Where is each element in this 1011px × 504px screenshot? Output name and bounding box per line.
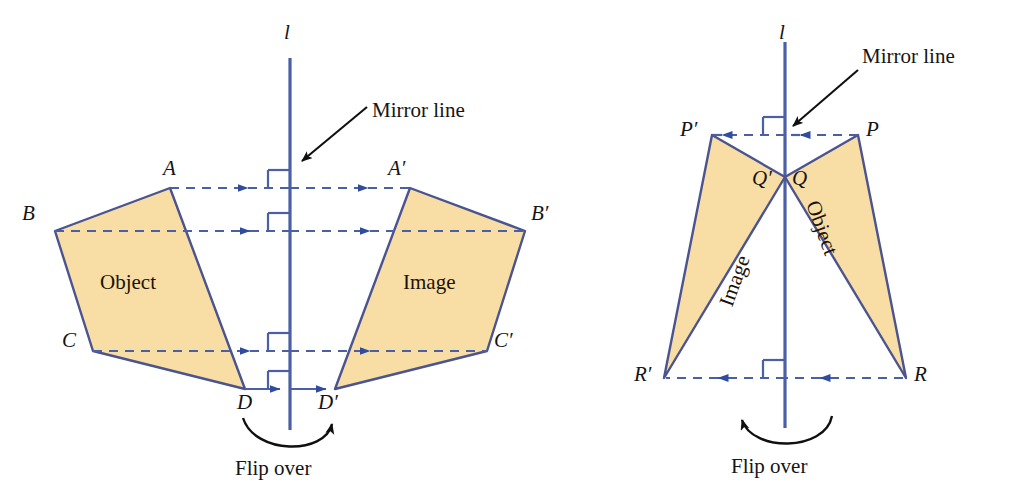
mirror-line-callout-arrow-left <box>302 107 367 161</box>
vertex-label-d-prime: D′ <box>318 392 338 413</box>
image-region-label-left: Image <box>403 272 455 293</box>
right-panel <box>664 42 906 444</box>
flip-over-label-right: Flip over <box>731 456 807 477</box>
mirror-line-annotation-left: Mirror line <box>372 100 465 121</box>
mirror-line-name-right: l <box>779 22 785 43</box>
mirror-line-name-left: l <box>284 22 290 43</box>
vertex-label-p-prime: P′ <box>680 119 697 140</box>
mirror-line-annotation-right: Mirror line <box>862 46 955 67</box>
vertex-label-a: A <box>163 158 176 179</box>
flip-over-label-left: Flip over <box>235 458 311 479</box>
object-region-label-left: Object <box>100 272 156 293</box>
flip-over-arc-right <box>742 416 832 444</box>
mirror-line-callout-arrow-right <box>793 70 858 126</box>
reflection-diagram-svg <box>0 0 1011 504</box>
vertex-label-b-prime: B′ <box>531 203 548 224</box>
flip-over-arc-left <box>243 418 332 447</box>
vertex-label-b: B <box>22 203 35 224</box>
vertex-label-p: P <box>866 119 879 140</box>
vertex-label-r: R <box>914 364 927 385</box>
vertex-label-c-prime: C′ <box>494 330 513 351</box>
figure-canvas: l Mirror line A B C D A′ B′ C′ D′ Object… <box>0 0 1011 504</box>
vertex-label-a-prime: A′ <box>388 158 405 179</box>
vertex-label-d: D <box>237 392 252 413</box>
vertex-label-c: C <box>62 330 76 351</box>
vertex-label-q-prime: Q′ <box>752 168 772 189</box>
vertex-label-r-prime: R′ <box>634 364 651 385</box>
vertex-label-q: Q <box>792 168 807 189</box>
